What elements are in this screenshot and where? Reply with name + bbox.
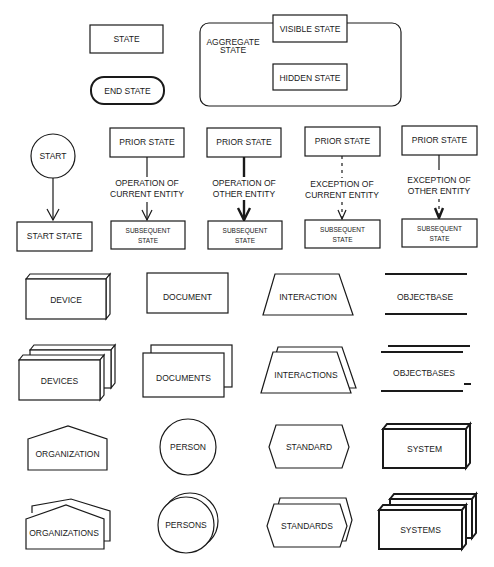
documents-label: DOCUMENTS — [156, 373, 211, 383]
transition-operation-current-entity: PRIOR STATE OPERATION OF CURRENT ENTITY … — [110, 128, 185, 249]
hidden-state-symbol: HIDDEN STATE — [273, 64, 347, 90]
transition-label-line1: EXCEPTION OF — [407, 175, 470, 185]
start-label: START — [39, 151, 66, 161]
interaction-symbol: INTERACTION — [263, 274, 353, 315]
standards-symbol: STANDARDS — [267, 498, 352, 547]
transition-exception-other-entity: PRIOR STATE EXCEPTION OF OTHER ENTITY SU… — [402, 126, 477, 247]
prior-state-label: PRIOR STATE — [315, 136, 371, 146]
subsequent-state-label-line2: STATE — [333, 236, 354, 243]
notation-diagram: STATE END STATE AGGREGATE STATE VISIBLE … — [0, 0, 494, 567]
devices-label: DEVICES — [41, 376, 79, 386]
interactions-symbol: INTERACTIONS — [261, 347, 356, 393]
standard-symbol: STANDARD — [269, 425, 349, 468]
transition-exception-current-entity: PRIOR STATE EXCEPTION OF CURRENT ENTITY … — [305, 127, 380, 248]
interactions-label: INTERACTIONS — [274, 370, 338, 380]
end-state-label: END STATE — [104, 86, 151, 96]
transition-label-line2: OTHER ENTITY — [408, 186, 471, 196]
prior-state-label: PRIOR STATE — [412, 135, 468, 145]
standard-label: STANDARD — [286, 442, 332, 452]
organizations-label: ORGANIZATIONS — [29, 528, 99, 538]
subsequent-state-label-line1: SUBSEQUENT — [320, 226, 365, 234]
transition-label-line2: CURRENT ENTITY — [305, 190, 379, 200]
end-state-symbol: END STATE — [91, 77, 164, 104]
person-label: PERSON — [170, 442, 206, 452]
start-state-label: START STATE — [27, 231, 83, 241]
prior-state-label: PRIOR STATE — [216, 137, 272, 147]
subsequent-state-label-line2: STATE — [235, 237, 256, 244]
organizations-symbol: ORGANIZATIONS — [26, 499, 110, 549]
transition-operation-other-entity: PRIOR STATE OPERATION OF OTHER ENTITY SU… — [207, 128, 282, 249]
subsequent-state-label-line1: SUBSEQUENT — [223, 227, 268, 235]
transition-label-line2: OTHER ENTITY — [213, 189, 276, 199]
interaction-label: INTERACTION — [279, 292, 337, 302]
document-symbol: DOCUMENT — [147, 273, 228, 313]
organization-label: ORGANIZATION — [35, 449, 99, 459]
aggregate-state-label-line2: STATE — [220, 45, 246, 55]
system-label: SYSTEM — [407, 444, 442, 454]
state-label: STATE — [113, 34, 139, 44]
organization-symbol: ORGANIZATION — [28, 426, 107, 470]
transition-label-line2: CURRENT ENTITY — [110, 189, 184, 199]
document-label: DOCUMENT — [163, 292, 212, 302]
devices-symbol: DEVICES — [19, 345, 115, 400]
transition-label-line1: EXCEPTION OF — [310, 179, 373, 189]
standards-label: STANDARDS — [281, 521, 333, 531]
persons-symbol: PERSONS — [158, 493, 218, 553]
subsequent-state-label-line2: STATE — [138, 237, 159, 244]
person-symbol: PERSON — [160, 419, 216, 475]
hidden-state-label: HIDDEN STATE — [279, 73, 340, 83]
subsequent-state-label-line1: SUBSEQUENT — [126, 227, 171, 235]
systems-symbol: SYSTEMS — [379, 494, 476, 549]
transition-label-line1: OPERATION OF — [115, 178, 179, 188]
visible-state-label: VISIBLE STATE — [280, 24, 341, 34]
objectbase-label: OBJECTBASE — [397, 292, 454, 302]
device-label: DEVICE — [50, 295, 82, 305]
objectbases-symbol: OBJECTBASES — [381, 346, 471, 391]
state-symbol: STATE — [90, 25, 163, 53]
device-symbol: DEVICE — [26, 274, 110, 319]
objectbase-symbol: OBJECTBASE — [385, 274, 467, 314]
start-transition: START START STATE — [17, 134, 92, 251]
objectbases-label: OBJECTBASES — [393, 368, 455, 378]
persons-label: PERSONS — [165, 520, 207, 530]
transition-label-line1: OPERATION OF — [212, 178, 276, 188]
aggregate-state-symbol: AGGREGATE STATE VISIBLE STATE HIDDEN STA… — [200, 15, 401, 106]
subsequent-state-label-line1: SUBSEQUENT — [417, 225, 462, 233]
prior-state-label: PRIOR STATE — [119, 137, 175, 147]
documents-symbol: DOCUMENTS — [143, 345, 232, 397]
subsequent-state-label-line2: STATE — [430, 235, 451, 242]
visible-state-symbol: VISIBLE STATE — [273, 15, 347, 42]
system-symbol: SYSTEM — [383, 424, 470, 468]
systems-label: SYSTEMS — [400, 525, 441, 535]
